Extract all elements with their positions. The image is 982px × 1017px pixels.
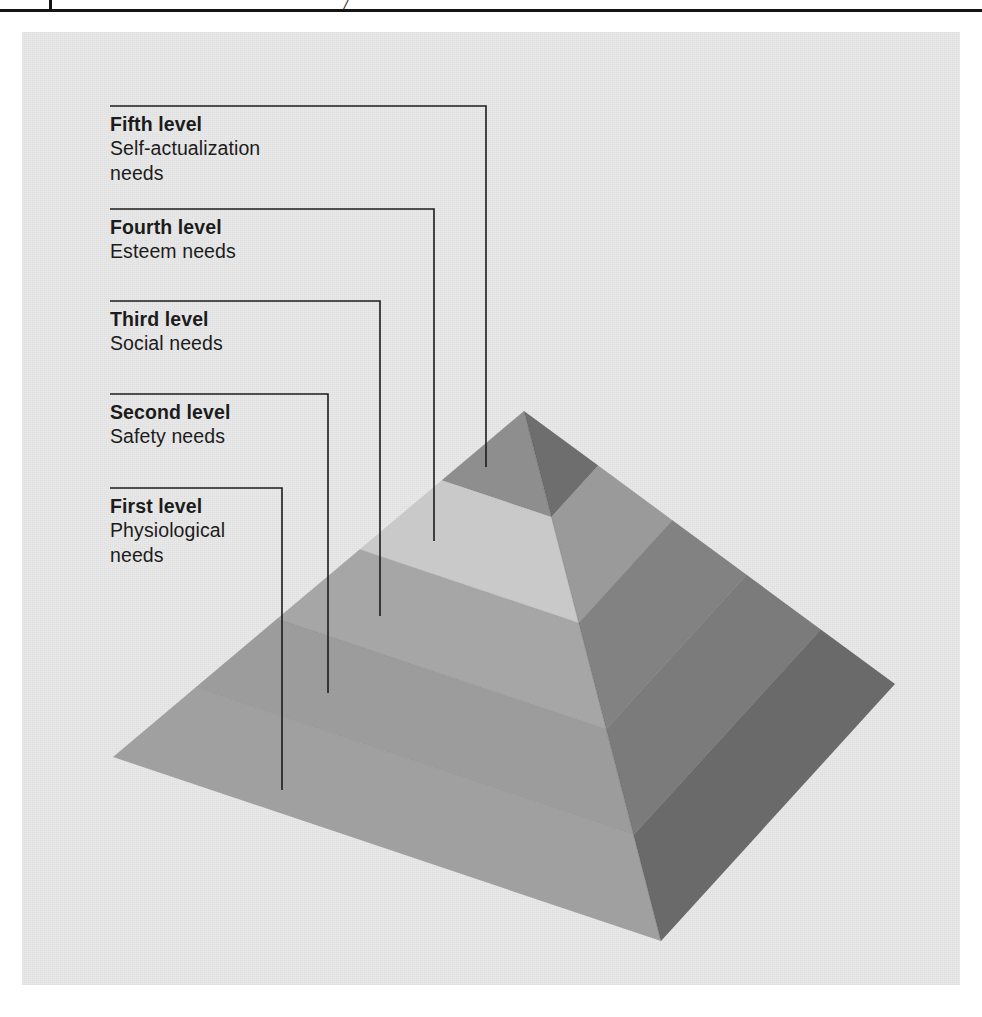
- level-description-3: Social needs: [110, 331, 223, 356]
- level-title-3: Third level: [110, 307, 223, 331]
- pyramid-shape: [113, 411, 895, 941]
- diagram-stage: / Fifth levelSelf-actualization needsFou…: [0, 0, 982, 1017]
- level-label-3: Third levelSocial needs: [110, 307, 223, 356]
- level-description-4: Esteem needs: [110, 239, 236, 264]
- level-description-1: Physiological needs: [110, 518, 225, 568]
- level-title-1: First level: [110, 494, 225, 518]
- level-label-4: Fourth levelEsteem needs: [110, 215, 236, 264]
- level-title-5: Fifth level: [110, 112, 260, 136]
- level-label-1: First levelPhysiological needs: [110, 494, 225, 568]
- level-description-5: Self-actualization needs: [110, 136, 260, 186]
- level-title-2: Second level: [110, 400, 230, 424]
- level-description-2: Safety needs: [110, 424, 230, 449]
- level-title-4: Fourth level: [110, 215, 236, 239]
- level-label-2: Second levelSafety needs: [110, 400, 230, 449]
- level-label-5: Fifth levelSelf-actualization needs: [110, 112, 260, 186]
